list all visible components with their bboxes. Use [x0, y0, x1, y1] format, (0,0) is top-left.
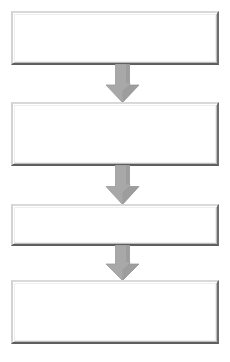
flowchart-node-step-2[interactable] — [11, 102, 219, 166]
node-inner-bevel — [14, 14, 216, 62]
node-inner-bevel — [14, 283, 216, 341]
node-inner-bevel — [14, 105, 216, 163]
flowchart-node-step-1[interactable] — [11, 11, 219, 65]
flow-arrow-down-icon-2 — [105, 165, 140, 205]
node-inner-bevel — [14, 207, 216, 243]
flowchart-node-step-4[interactable] — [11, 280, 219, 344]
flow-arrow-down-icon-3 — [105, 245, 140, 281]
flow-arrow-down-icon-1 — [105, 64, 140, 103]
flowchart-canvas — [0, 0, 230, 362]
flowchart-node-step-3[interactable] — [11, 204, 219, 246]
